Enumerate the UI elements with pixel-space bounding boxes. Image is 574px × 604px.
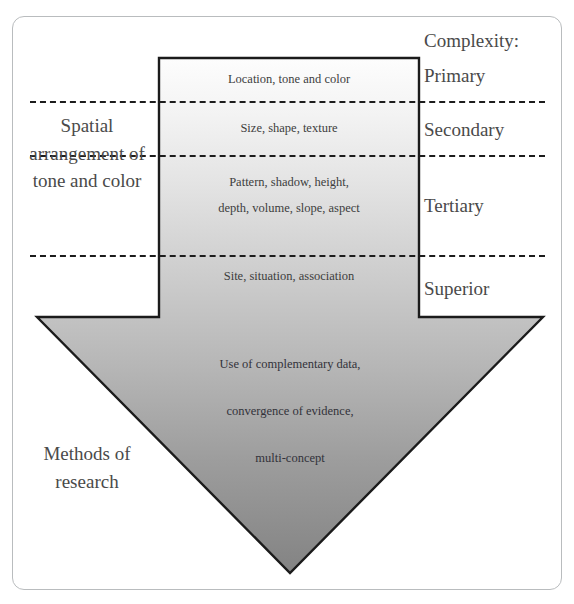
shaft-content-primary: Location, tone and color	[159, 71, 419, 88]
arrowhead-line-2: convergence of evidence,	[120, 403, 460, 420]
shaft-content-tertiary: Pattern, shadow, height, depth, volume, …	[159, 170, 419, 221]
shaft-content-tertiary-line2: depth, volume, slope, aspect	[159, 196, 419, 222]
caption-spatial-arrangement: Spatial arrangement of tone and color	[14, 112, 160, 195]
complexity-label-primary: Primary	[424, 63, 556, 88]
diagram-canvas: Location, tone and color Size, shape, te…	[0, 0, 574, 604]
arrowhead-line-3: multi-concept	[120, 450, 460, 467]
complexity-divider-primary-secondary	[30, 101, 545, 103]
shaft-content-tertiary-line1: Pattern, shadow, height,	[159, 170, 419, 196]
downward-arrow-shape	[0, 0, 574, 604]
shaft-content-secondary: Size, shape, texture	[159, 120, 419, 137]
caption-methods-of-research: Methods of research	[14, 440, 160, 495]
arrowhead-line-1: Use of complementary data,	[120, 356, 460, 373]
complexity-label-tertiary: Tertiary	[424, 193, 556, 218]
complexity-divider-tertiary-superior	[30, 255, 545, 257]
complexity-heading: Complexity:	[424, 28, 556, 53]
shaft-content-superior: Site, situation, association	[159, 268, 419, 285]
complexity-label-secondary: Secondary	[424, 117, 556, 142]
complexity-label-superior: Superior	[424, 276, 556, 301]
